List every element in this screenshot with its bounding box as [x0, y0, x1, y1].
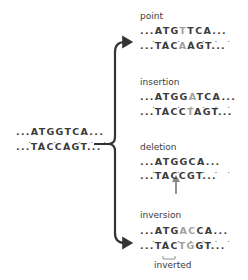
bracket-lower [108, 144, 131, 243]
inverted-bracket [163, 256, 175, 259]
label-inversion: inversion [140, 210, 181, 220]
inversion-bottom-strand: ...TACTGGT... [140, 240, 226, 251]
label-insertion: insertion [140, 77, 179, 87]
inverted-annotation: inverted [154, 260, 192, 270]
label-point: point [140, 11, 163, 21]
insertion-bottom-strand: ...TACCTAGT... [140, 106, 233, 117]
point-bottom-strand: ...TACAAGT... [140, 40, 226, 51]
deletion-bottom-strand: ...TACCGT... [140, 170, 217, 181]
label-deletion: deletion [140, 142, 177, 152]
original-bottom-strand: ...TACCAGT... [16, 141, 102, 152]
